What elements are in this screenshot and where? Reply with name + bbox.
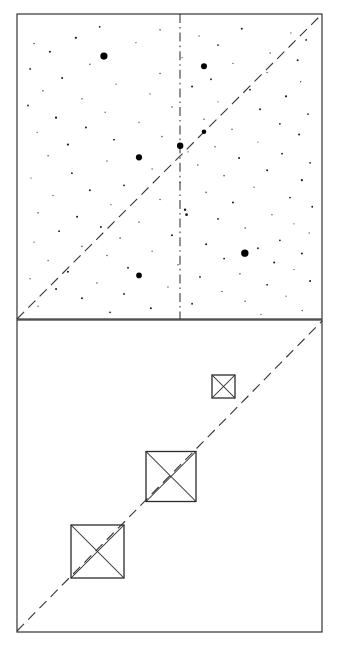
scatter-dot xyxy=(217,218,219,220)
scatter-dot xyxy=(311,206,313,208)
scatter-dot xyxy=(271,214,272,215)
scatter-dot xyxy=(297,59,299,61)
major-scatter-dot xyxy=(136,273,142,279)
scatter-dot xyxy=(177,264,179,266)
scatter-dot xyxy=(171,234,173,236)
scatter-dot xyxy=(285,95,287,97)
scatter-dot xyxy=(257,141,258,142)
scatter-dot xyxy=(159,199,161,201)
scatter-dot xyxy=(106,255,108,257)
scatter-dot xyxy=(253,187,254,188)
scatter-dot xyxy=(149,93,150,94)
scatter-dot xyxy=(52,195,53,196)
scatter-dot xyxy=(29,68,31,70)
scatter-dot xyxy=(285,295,286,296)
scatter-dot xyxy=(293,269,294,270)
scatter-dot xyxy=(81,98,83,100)
scatter-dot xyxy=(309,280,311,282)
scatter-dot xyxy=(67,271,69,273)
scatter-dot xyxy=(151,168,152,169)
scatter-dot xyxy=(205,243,207,245)
scatter-dot xyxy=(81,246,83,248)
scatter-dot xyxy=(61,77,63,79)
scatter-dot xyxy=(75,37,77,39)
scatter-dot xyxy=(281,153,283,155)
scatter-dot xyxy=(30,177,31,178)
scatter-dot xyxy=(203,118,205,120)
scatter-dot xyxy=(305,39,307,41)
scatter-dot xyxy=(161,136,163,138)
scatter-dot xyxy=(244,301,246,303)
scatter-dot xyxy=(187,151,188,152)
scatter-dot xyxy=(151,251,152,252)
scatter-dot xyxy=(309,162,311,164)
major-scatter-dot xyxy=(177,143,183,149)
scatter-dot xyxy=(85,126,87,128)
scatter-dot xyxy=(159,73,161,75)
scatter-dot xyxy=(115,83,116,84)
scatter-dot xyxy=(55,288,57,290)
major-scatter-dot xyxy=(202,129,207,134)
scatter-dot xyxy=(110,204,111,205)
scatter-dot xyxy=(49,51,51,53)
scatter-dot xyxy=(76,216,78,218)
scatter-dot xyxy=(249,89,251,91)
scatter-dot xyxy=(266,284,268,286)
scatter-dot xyxy=(217,101,218,102)
figure-root xyxy=(0,0,339,647)
scatter-dot xyxy=(184,209,186,211)
scatter-dot xyxy=(191,86,193,88)
scatter-dot xyxy=(217,44,219,46)
major-scatter-dot xyxy=(100,52,107,59)
major-scatter-dot xyxy=(201,63,207,69)
scatter-dot xyxy=(232,63,233,64)
scatter-dot xyxy=(29,278,30,279)
scatter-dot xyxy=(47,155,49,157)
scatter-dot xyxy=(96,282,98,284)
scatter-dot xyxy=(301,179,303,181)
scatter-dot xyxy=(307,113,309,115)
scatter-dot xyxy=(138,221,140,223)
scatter-dot xyxy=(81,297,83,299)
scatter-dot xyxy=(279,123,281,125)
scatter-dot xyxy=(289,197,291,199)
figure-canvas xyxy=(0,0,339,647)
scatter-dot xyxy=(37,212,39,214)
scatter-dot xyxy=(58,230,60,232)
scatter-dot xyxy=(238,157,240,159)
scatter-dot xyxy=(100,226,102,228)
scatter-dot xyxy=(300,81,302,83)
scatter-dot xyxy=(33,241,34,242)
scatter-dot xyxy=(197,164,199,166)
scatter-dot xyxy=(185,213,188,216)
scatter-dot xyxy=(214,146,216,148)
scatter-dot xyxy=(89,64,91,66)
scatter-dot xyxy=(279,239,281,241)
scatter-dot xyxy=(47,260,48,261)
scatter-dot xyxy=(71,172,73,174)
scatter-dot xyxy=(301,310,303,312)
scatter-dot xyxy=(259,108,261,110)
scatter-dot xyxy=(257,247,259,249)
scatter-dot xyxy=(89,189,91,191)
scatter-dot xyxy=(127,267,129,269)
scatter-dot xyxy=(241,28,243,30)
scatter-dot xyxy=(293,223,294,224)
scatter-dot xyxy=(191,303,193,305)
scatter-dot xyxy=(109,311,111,313)
major-scatter-dot xyxy=(136,154,142,160)
lower-panel-squares xyxy=(17,320,322,632)
scatter-dot xyxy=(199,276,201,278)
scatter-dot xyxy=(198,35,199,36)
scatter-dot xyxy=(150,307,152,309)
scatter-dot xyxy=(269,52,271,54)
scatter-dot xyxy=(99,26,101,28)
scatter-dot xyxy=(123,293,125,295)
scatter-dot xyxy=(119,237,121,239)
scatter-dot xyxy=(223,175,225,177)
scatter-dot xyxy=(171,106,173,108)
scatter-dot xyxy=(308,232,309,233)
scatter-dot xyxy=(135,42,136,43)
scatter-dot xyxy=(55,117,57,119)
scatter-dot xyxy=(290,32,291,33)
